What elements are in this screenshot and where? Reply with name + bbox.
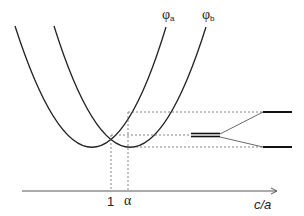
label-phi-b: φb <box>202 8 215 23</box>
curve-phi-a <box>15 26 166 147</box>
tick-label-1: 1 <box>107 195 114 208</box>
split-line-lower <box>220 137 263 147</box>
curve-phi-b <box>54 26 206 147</box>
split-line-upper <box>220 112 263 134</box>
axis-label-c-over-a: c/a <box>254 198 271 211</box>
energy-diagram <box>0 0 304 216</box>
label-phi-a: φa <box>162 8 175 23</box>
tick-label-alpha: α <box>124 194 131 208</box>
